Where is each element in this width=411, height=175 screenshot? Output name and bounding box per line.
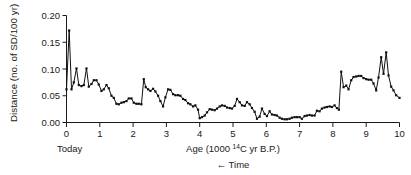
data-point: [214, 109, 216, 111]
x-tick-label: 0: [64, 128, 69, 139]
data-point: [130, 97, 132, 99]
data-point: [177, 94, 179, 96]
data-point: [103, 88, 105, 90]
x-tick-label: 7: [297, 128, 302, 139]
data-series-markers: [65, 29, 400, 120]
data-point: [83, 84, 85, 86]
data-point: [110, 95, 112, 97]
data-point: [352, 76, 354, 78]
data-point: [123, 101, 125, 103]
data-point: [323, 106, 325, 108]
data-point: [147, 88, 149, 90]
data-point: [326, 106, 328, 108]
data-point: [199, 117, 201, 119]
data-point: [251, 107, 253, 109]
data-point: [182, 98, 184, 100]
data-point: [98, 83, 100, 85]
data-point: [311, 114, 313, 116]
x-tick-label: 3: [164, 128, 169, 139]
data-point: [338, 109, 340, 111]
data-point: [73, 81, 75, 83]
data-point: [390, 86, 392, 88]
data-point: [226, 106, 228, 108]
data-point: [276, 114, 278, 116]
data-point: [209, 108, 211, 110]
y-axis-title: Distance (no. of SD/100 yr): [8, 4, 19, 122]
data-point: [108, 87, 110, 89]
data-point: [224, 105, 226, 107]
data-series-line: [67, 30, 400, 119]
chart-canvas: Distance (no. of SD/100 yr) 0.20 0.15 0.…: [0, 0, 411, 175]
data-point: [80, 85, 82, 87]
x-tick-label: 4: [197, 128, 202, 139]
data-point: [269, 110, 271, 112]
data-point: [169, 89, 171, 91]
data-point: [159, 100, 161, 102]
data-point: [259, 116, 261, 118]
data-point: [172, 93, 174, 95]
data-point: [271, 113, 273, 115]
data-point: [333, 104, 335, 106]
data-point: [331, 106, 333, 108]
data-point: [118, 103, 120, 105]
data-point: [206, 111, 208, 113]
data-point: [93, 79, 95, 81]
data-point: [304, 115, 306, 117]
data-point: [313, 114, 315, 116]
data-point: [264, 113, 266, 115]
data-point: [135, 103, 137, 105]
data-point: [291, 117, 293, 119]
data-point: [211, 109, 213, 111]
data-point: [229, 107, 231, 109]
data-point: [244, 105, 246, 107]
y-tick-label: 0.05: [42, 90, 61, 101]
data-point: [162, 105, 164, 107]
data-point: [179, 95, 181, 97]
data-point: [241, 104, 243, 106]
data-point: [336, 107, 338, 109]
x-tick-label: 1: [97, 128, 102, 139]
data-point: [189, 103, 191, 105]
data-point: [164, 96, 166, 98]
data-point: [128, 97, 130, 99]
data-point: [350, 79, 352, 81]
data-point: [88, 86, 90, 88]
figure-container: Distance (no. of SD/100 yr) 0.20 0.15 0.…: [0, 0, 411, 175]
data-point: [105, 84, 107, 86]
data-point: [187, 102, 189, 104]
x-axis-ticks: [67, 123, 400, 128]
today-label: Today: [57, 143, 83, 154]
data-point: [345, 84, 347, 86]
data-point: [149, 90, 151, 92]
data-point: [236, 98, 238, 100]
data-point: [221, 104, 223, 106]
y-tick-labels: 0.20 0.15 0.10 0.05 0.00: [42, 10, 61, 128]
data-point: [157, 95, 159, 97]
data-point: [377, 76, 379, 78]
data-point: [392, 89, 394, 91]
data-point: [115, 103, 117, 105]
data-point: [231, 107, 233, 109]
data-point: [249, 103, 251, 105]
data-point: [152, 88, 154, 90]
y-axis-ticks: [63, 16, 67, 123]
data-point: [316, 110, 318, 112]
data-point: [113, 97, 115, 99]
data-point: [143, 78, 145, 80]
x-tick-labels: 0 1 2 3 4 5 6 7 8 9 10: [64, 128, 405, 139]
y-tick-label: 0.00: [42, 117, 61, 128]
data-point: [318, 110, 320, 112]
data-point: [201, 116, 203, 118]
data-point: [194, 104, 196, 106]
data-point: [398, 97, 400, 99]
data-point: [321, 107, 323, 109]
data-point: [382, 73, 384, 75]
data-point: [387, 74, 389, 76]
data-point: [347, 88, 349, 90]
data-point: [362, 77, 364, 79]
x-tick-label: 5: [230, 128, 235, 139]
data-point: [68, 29, 70, 31]
x-tick-label: 2: [130, 128, 135, 139]
data-point: [360, 75, 362, 77]
data-point: [385, 51, 387, 53]
